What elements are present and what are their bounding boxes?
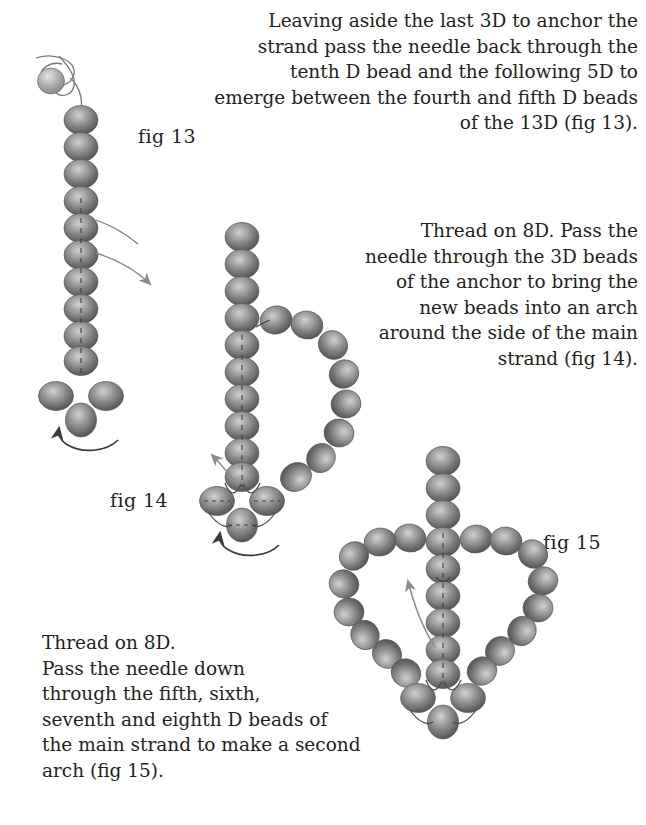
bead-anchor-bottom [66,403,97,437]
bead-arch [325,565,364,603]
bead [426,447,460,476]
anchor-group-fig14 [200,487,285,543]
bead [225,250,259,279]
bead [426,528,460,557]
page-canvas: Leaving aside the last 3D to anchor the … [0,0,646,825]
bead [64,241,98,270]
bead-anchor-right [89,382,124,411]
left-arch-fig15 [325,522,428,692]
figure-label-fig14: fig 14 [110,489,168,511]
bead [225,223,259,252]
bead [225,358,259,387]
anchor-group-fig13 [39,382,124,438]
bead [225,277,259,306]
right-arch-fig15 [458,523,562,690]
figure-fig15 [330,455,580,745]
pointer-arrow-fig13 [96,253,150,284]
bead-needle-fig13 [38,68,65,94]
instruction-paragraph-2: Thread on 8D. Pass the needle through th… [360,218,638,371]
bead-arch [328,387,363,421]
anchor-group-fig15 [401,684,486,740]
bead [426,474,460,503]
bead-arch [458,523,494,555]
bead [225,304,259,333]
bead-arch [289,309,325,341]
bead-arch [324,355,364,394]
bead-arch [257,303,295,338]
bead-anchor-left [39,382,74,411]
bead [64,133,98,162]
bead [426,555,460,584]
bead-arch [392,522,428,554]
bead [64,160,98,189]
instruction-paragraph-1: Leaving aside the last 3D to anchor the … [214,8,638,136]
bead [426,501,460,530]
bead [64,106,98,135]
thread-exit-fig13 [96,220,138,244]
